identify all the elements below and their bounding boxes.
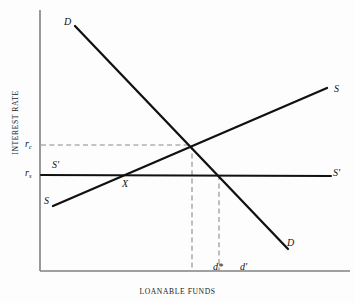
y-tick-label-rc: rc (25, 139, 32, 149)
supply-curve-label-top: S (334, 84, 339, 94)
demand-curve-label-top: D (64, 17, 71, 27)
y-tick-label-rs: rs (25, 168, 31, 178)
x-tick-label-d-prime: d' (240, 262, 247, 272)
point-label-x: X (122, 179, 128, 189)
supply-ceiling-curve (41, 175, 331, 176)
demand-curve-label-bottom: D (287, 238, 294, 248)
supply-ceiling-label-left: S' (52, 160, 59, 170)
loanable-funds-diagram: INTEREST RATE LOANABLE FUNDS D D S S S' … (0, 0, 355, 303)
x-tick-label-d-star: d* (213, 262, 223, 272)
y-tick-rs-subscript: s (29, 172, 32, 179)
y-axis-title: INTEREST RATE (11, 75, 20, 171)
y-tick-rc-subscript: c (29, 143, 32, 150)
supply-curve-label-bottom: S (44, 196, 49, 206)
supply-ceiling-label-right: S' (333, 168, 340, 178)
x-axis-title: LOANABLE FUNDS (0, 287, 355, 296)
diagram-canvas (0, 0, 355, 303)
demand-curve (75, 26, 288, 249)
